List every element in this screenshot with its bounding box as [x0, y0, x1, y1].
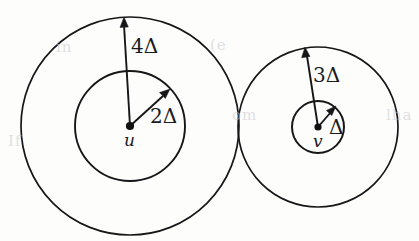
label-node-u: u [124, 132, 135, 149]
scan-bleed-text-5: lha [386, 106, 412, 124]
figure-canvas: in (e om If lha 4Δ 2Δ 3Δ Δ u v [0, 0, 419, 241]
radius-arrow-head-u-outer [120, 17, 128, 28]
scan-bleed-text-3: om [232, 106, 257, 124]
label-inner-radius-v: Δ [329, 117, 343, 137]
center-dot-v [314, 123, 321, 130]
center-dot-u [126, 122, 134, 130]
label-outer-radius-u: 4Δ [131, 36, 158, 56]
radius-arrow-line-u-outer [124, 25, 130, 126]
label-outer-radius-v: 3Δ [313, 65, 340, 85]
scan-bleed-text-1: in [56, 38, 72, 56]
scan-bleed-text-2: (e [210, 36, 227, 54]
scan-bleed-text-4: If [8, 132, 21, 150]
label-node-v: v [313, 133, 323, 150]
label-inner-radius-u: 2Δ [150, 106, 177, 126]
